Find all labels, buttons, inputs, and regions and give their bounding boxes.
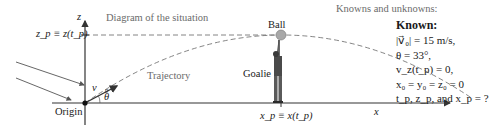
origin-pointer-arrow <box>16 78 71 100</box>
v0-pointer-arrow <box>16 62 84 85</box>
known-initial-position: x₀ = y₀ = z₀ = 0 <box>396 77 489 92</box>
knowns-header: Knowns and unknowns: <box>336 3 438 14</box>
z-axis-label: z <box>77 11 81 22</box>
known-v0: |v⃗₀| = 15 m/s, <box>396 33 489 48</box>
ball <box>276 30 286 40</box>
known-vz: v_z(t_p) = 0, <box>396 62 489 77</box>
unknowns: t_p, z_p, and x_p = ? <box>396 91 489 106</box>
x-axis-label: x <box>374 106 379 117</box>
goalie-label: Goalie <box>243 68 271 79</box>
origin-label: Origin <box>55 106 82 117</box>
known-theta: θ = 33°, <box>396 48 489 63</box>
known-title: Known: <box>396 18 489 33</box>
goalie-figure <box>273 40 283 103</box>
origin-point <box>82 100 87 105</box>
knowns-panel: Knowns and unknowns: <box>336 3 438 14</box>
ball-label: Ball <box>268 19 286 30</box>
knowns-list: Known: |v⃗₀| = 15 m/s, θ = 33°, v_z(t_p)… <box>396 18 489 106</box>
trajectory-label: Trajectory <box>147 70 190 81</box>
xp-label: x_p ≡ x(t_p) <box>260 110 313 121</box>
diagram-title: Diagram of the situation <box>106 12 208 23</box>
theta-label: θ <box>104 91 109 102</box>
zp-label: z_p ≡ z(t_p) <box>36 28 87 39</box>
